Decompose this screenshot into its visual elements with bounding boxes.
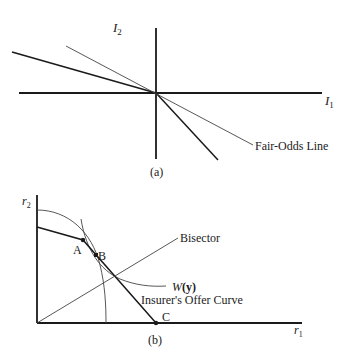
a-x-axis-label: I1 bbox=[324, 93, 334, 110]
a-thick-line-lower bbox=[156, 93, 218, 160]
point-a-label: A bbox=[73, 243, 82, 257]
point-b-label: B bbox=[98, 249, 106, 263]
caption-b: (b) bbox=[148, 333, 162, 347]
a-thick-line-upper bbox=[12, 52, 156, 93]
a-fair-odds-line bbox=[66, 46, 253, 145]
fair-odds-label: Fair-Odds Line bbox=[255, 139, 328, 153]
b-bisector bbox=[37, 238, 178, 323]
b-insurer-offer-curve bbox=[37, 227, 156, 323]
point-a-marker bbox=[81, 238, 85, 242]
figure-b: r2 r1 A B C Bisector W(y) Insurer's Offe… bbox=[22, 194, 303, 347]
b-x-axis-label: r1 bbox=[294, 323, 303, 339]
offer-curve-label: Insurer's Offer Curve bbox=[141, 293, 243, 307]
point-c-label: C bbox=[162, 310, 170, 324]
diagram-canvas: I2 I1 Fair-Odds Line (a) r2 r1 A B C Bis… bbox=[0, 0, 345, 355]
w-curve-label: W(y) bbox=[172, 280, 196, 294]
a-y-axis-label: I2 bbox=[112, 20, 122, 37]
point-c-marker bbox=[154, 321, 158, 325]
figure-a: I2 I1 Fair-Odds Line (a) bbox=[12, 20, 334, 179]
caption-a: (a) bbox=[150, 165, 163, 179]
b-indifference-arc bbox=[37, 210, 106, 323]
bisector-label: Bisector bbox=[180, 231, 220, 245]
b-y-axis-label: r2 bbox=[22, 194, 31, 210]
